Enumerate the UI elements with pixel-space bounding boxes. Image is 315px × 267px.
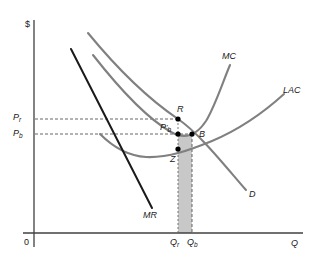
- quantity-label-qb-subscript: b: [194, 241, 198, 248]
- x-axis-label: Q: [291, 239, 298, 248]
- curve-label-lac: LAC: [283, 86, 301, 95]
- price-label-pb: Pb: [13, 129, 23, 138]
- lac-curve: [100, 94, 284, 157]
- point-b: [189, 131, 194, 136]
- plot-canvas: [0, 0, 315, 267]
- economics-diagram: $ Q 0 Pr Pb P'b Qr Qb R B Z MC LAC D MR: [0, 0, 315, 267]
- quantity-label-qr-base: Q: [170, 237, 177, 247]
- curve-label-demand: D: [249, 190, 256, 199]
- curve-label-mc: MC: [222, 52, 236, 61]
- price-label-pr: Pr: [13, 113, 21, 122]
- quantity-label-qr-subscript: r: [177, 241, 179, 248]
- point-r: [175, 116, 180, 121]
- quantity-label-qb-base: Q: [187, 237, 194, 247]
- point-label-r: R: [177, 105, 184, 114]
- origin-label: 0: [24, 238, 29, 247]
- price-label-pb-prime: P'b: [160, 123, 171, 132]
- marginal-revenue-curve: [71, 49, 152, 208]
- point-z: [175, 146, 180, 151]
- point-pb-prime: [175, 131, 180, 136]
- y-axis-label: $: [25, 20, 30, 29]
- quantity-label-qr: Qr: [170, 238, 179, 247]
- quantity-label-qb: Qb: [187, 238, 198, 247]
- price-label-pb-prime-subscript: b: [168, 126, 172, 133]
- price-label-pb-subscript: b: [19, 132, 23, 139]
- curve-label-mr: MR: [143, 211, 157, 220]
- point-label-b: B: [199, 130, 205, 139]
- point-label-z: Z: [170, 155, 176, 164]
- price-label-pr-subscript: r: [19, 116, 21, 123]
